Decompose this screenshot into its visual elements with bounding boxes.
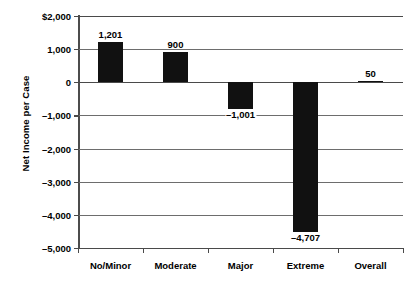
bar-value-label: –1,001 [225,109,256,120]
y-axis-tick [74,182,79,183]
gridline [78,182,403,183]
bar-value-label: 1,201 [99,29,123,40]
gridline [78,16,403,17]
x-axis-tick-label: Overall [354,260,386,271]
x-axis-tick [78,248,79,253]
bar [358,81,383,83]
gridline [78,149,403,150]
gridline [78,215,403,216]
y-axis-tick-label: –2,000 [42,143,71,154]
bar-value-label: 50 [365,68,376,79]
x-axis-tick-label: Moderate [154,260,196,271]
x-axis-tick-label: No/Minor [90,260,131,271]
y-axis-tick-label: –1,000 [42,110,71,121]
y-axis-tick [74,49,79,50]
gridline [78,248,403,249]
x-axis-tick-label: Extreme [287,260,325,271]
y-axis-tick-label: –5,000 [42,243,71,254]
y-axis-tick [74,82,79,83]
bar-value-label: 900 [168,39,184,50]
x-axis-tick [143,248,144,253]
bar [98,42,123,82]
x-axis-tick [403,248,404,253]
bar-value-label: –4,707 [290,232,321,243]
bar [293,82,318,238]
x-axis-tick [338,248,339,253]
y-axis-tick-label: $2,000 [42,11,71,22]
y-axis-tick-label: 0 [66,77,71,88]
gridline [78,49,403,50]
y-axis-tick-label: 1,000 [47,44,71,55]
x-axis-tick [208,248,209,253]
y-axis-tick-label: –3,000 [42,176,71,187]
y-axis-tick-label: –4,000 [42,209,71,220]
x-axis-tick [273,248,274,253]
y-axis-tick [74,215,79,216]
bar-chart: Net Income per Case $2,0001,0000–1,000–2… [0,0,415,288]
plot-area: $2,0001,0000–1,000–2,000–3,000–4,000–5,0… [78,16,403,248]
y-axis-tick [74,149,79,150]
bar [163,52,188,82]
x-axis-tick-label: Major [228,260,253,271]
y-axis-tick [74,115,79,116]
y-axis-title: Net Income per Case [20,49,31,199]
y-axis-tick [74,16,79,17]
